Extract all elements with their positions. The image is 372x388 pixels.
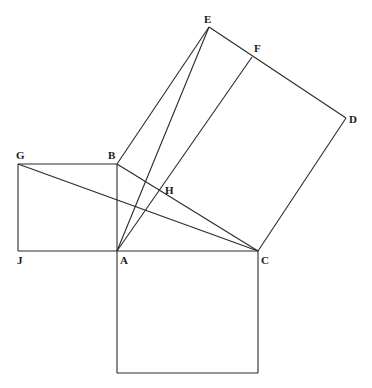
line-segments bbox=[18, 27, 346, 373]
point-label-j: J bbox=[17, 254, 23, 266]
point-label-h: H bbox=[165, 184, 174, 196]
point-label-f: F bbox=[254, 42, 261, 54]
pythagorean-diagram: EFDGBHJAC bbox=[0, 0, 372, 388]
point-label-d: D bbox=[349, 113, 357, 125]
point-label-c: C bbox=[261, 254, 269, 266]
point-labels: EFDGBHJAC bbox=[16, 13, 357, 266]
point-label-g: G bbox=[16, 149, 25, 161]
point-label-e: E bbox=[204, 13, 211, 25]
segment-ed bbox=[209, 27, 346, 118]
point-label-b: B bbox=[108, 149, 116, 161]
point-label-a: A bbox=[120, 254, 128, 266]
segment-dc bbox=[258, 118, 346, 251]
segment-be bbox=[117, 27, 209, 164]
